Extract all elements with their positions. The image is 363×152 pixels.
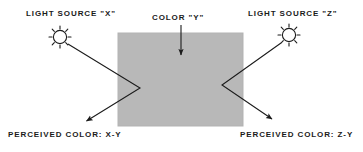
label-perceived-color-z: PERCEIVED COLOR: Z-Y (240, 131, 353, 139)
label-color-y: COLOR "Y" (152, 14, 204, 22)
label-light-source-x: LIGHT SOURCE "X" (26, 10, 116, 18)
sun-icon (49, 26, 71, 48)
sun-icon (278, 24, 300, 46)
label-light-source-z: LIGHT SOURCE "Z" (248, 10, 338, 18)
label-perceived-color-x: PERCEIVED COLOR: X-Y (8, 131, 122, 139)
diagram-canvas: LIGHT SOURCE "X" COLOR "Y" LIGHT SOURCE … (0, 0, 363, 152)
